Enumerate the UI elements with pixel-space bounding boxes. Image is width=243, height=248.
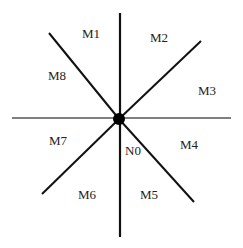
label-m3: M3 (198, 84, 216, 97)
label-m2: M2 (150, 31, 168, 44)
diagonal-ne-line (119, 41, 201, 119)
label-m1: M1 (82, 27, 100, 40)
label-m5: M5 (140, 188, 158, 201)
label-n0-center: N0 (125, 144, 141, 157)
diagonal-sw-line (42, 119, 119, 194)
label-m7: M7 (49, 134, 67, 147)
direction-diagram (0, 0, 243, 248)
label-m6: M6 (78, 188, 96, 201)
center-dot (113, 113, 125, 125)
label-m4: M4 (180, 138, 198, 151)
label-m8: M8 (48, 69, 66, 82)
